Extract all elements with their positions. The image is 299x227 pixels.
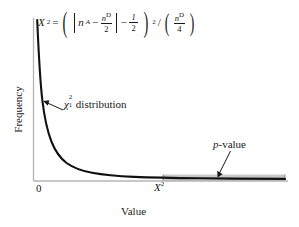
chi-square-formula: X2 = ( nA − nD 2 − 1 2 )2 / ( nD 4 ) (38, 12, 196, 34)
x-tick-xsq-base: X (154, 181, 161, 193)
formula-equals: = (52, 17, 58, 28)
x-tick-xsq-exponent: 2 (161, 180, 165, 188)
chi-square-distribution-label: χ21 distribution (64, 99, 127, 110)
formula-frac3-num-sub: D (179, 11, 184, 19)
formula-divide-slash: / (158, 17, 161, 28)
chi-label-leader-line (47, 103, 64, 111)
formula-frac3-num-wrap: nD (174, 12, 185, 23)
x-tick-label-zero: 0 (36, 183, 42, 194)
x-tick-label-x-squared: X2 (154, 181, 164, 193)
formula-minus-2: − (120, 17, 126, 28)
chi-label-arrowhead-icon (43, 100, 49, 106)
formula-minus-1: − (92, 17, 98, 28)
formula-frac1-num-wrap: nD (101, 12, 112, 23)
chi-superscript: 2 (69, 94, 73, 101)
chi-square-figure: X2 = ( nA − nD 2 − 1 2 )2 / ( nD 4 ) χ21… (0, 0, 299, 227)
formula-lhs-exponent: 2 (47, 19, 51, 26)
formula-frac2-den: 2 (131, 24, 137, 33)
formula-lhs: X (38, 17, 45, 28)
chi-glyph: χ21 (64, 99, 69, 110)
formula-abs-open-bar (74, 13, 75, 33)
p-value-leader-line (219, 151, 231, 174)
formula-denom-open-paren: ( (165, 13, 170, 33)
x-axis-label: Value (121, 206, 146, 217)
p-value-suffix: -value (219, 138, 246, 150)
formula-square-exponent: 2 (152, 19, 156, 26)
chi-label-text: distribution (76, 99, 127, 110)
formula-nA-sub: A (86, 19, 90, 26)
formula-close-paren: ) (143, 12, 148, 34)
chi-subscript: 1 (69, 102, 73, 109)
y-axis-label: Frequency (13, 74, 24, 146)
formula-denom-close-paren: ) (189, 13, 194, 33)
formula-nA: n (78, 17, 84, 28)
formula-frac1-den: 2 (103, 25, 109, 34)
formula-fraction-nD-4: nD 4 (174, 12, 185, 34)
p-value-label: p-value (213, 139, 246, 150)
plot-canvas (0, 0, 299, 227)
formula-abs-close-bar (116, 13, 117, 33)
formula-fraction-nD-2: nD 2 (101, 12, 112, 34)
formula-frac1-num-sub: D (106, 11, 111, 19)
formula-fraction-one-half: 1 2 (129, 13, 138, 33)
formula-frac2-num: 1 (131, 13, 137, 22)
formula-open-paren: ( (63, 12, 68, 34)
formula-frac3-den: 4 (176, 25, 182, 34)
